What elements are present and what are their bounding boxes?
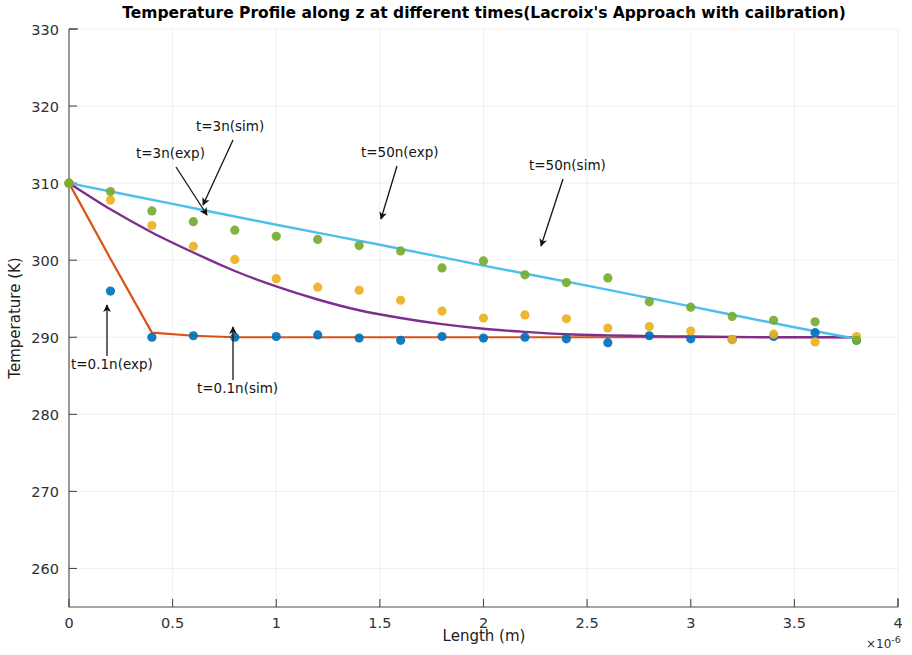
data-point	[520, 310, 529, 319]
data-point	[728, 335, 737, 344]
data-point	[272, 232, 281, 241]
data-point	[230, 226, 239, 235]
x-axis-multiplier-exponent: -6	[891, 634, 900, 645]
data-point	[562, 334, 571, 343]
data-point	[479, 333, 488, 342]
data-point	[230, 333, 239, 342]
data-point	[562, 278, 571, 287]
data-point	[769, 316, 778, 325]
data-point	[686, 327, 695, 336]
data-point	[189, 217, 198, 226]
data-point	[437, 332, 446, 341]
annotation-label: t=3n(exp)	[136, 145, 205, 161]
data-point	[437, 306, 446, 315]
data-point	[106, 187, 115, 196]
data-point	[230, 255, 239, 264]
data-point	[313, 283, 322, 292]
data-point	[769, 330, 778, 339]
data-point	[272, 332, 281, 341]
data-point	[811, 317, 820, 326]
data-point	[479, 313, 488, 322]
data-point	[355, 333, 364, 342]
annotation-label: t=50n(exp)	[361, 144, 439, 160]
annotation-label: t=0.1n(sim)	[197, 380, 278, 396]
y-tick-label: 290	[31, 330, 59, 346]
annotation-label: t=0.1n(exp)	[71, 356, 153, 372]
x-tick-label: 3.5	[783, 615, 806, 631]
data-point	[189, 242, 198, 251]
y-tick-label: 260	[31, 561, 59, 577]
data-point	[603, 338, 612, 347]
y-tick-label: 270	[31, 484, 59, 500]
data-point	[147, 221, 156, 230]
data-point	[645, 297, 654, 306]
x-tick-label: 2.5	[576, 615, 599, 631]
x-tick-label: 4	[893, 615, 902, 631]
x-tick-label: 0	[64, 615, 73, 631]
x-axis-multiplier-base: ×10	[866, 637, 891, 651]
data-point	[396, 336, 405, 345]
chart-title: Temperature Profile along z at different…	[122, 4, 846, 22]
chart-figure: 26027028029030031032033000.511.522.533.5…	[0, 0, 912, 655]
data-point	[189, 331, 198, 340]
data-point	[603, 273, 612, 282]
x-tick-label: 1.5	[368, 615, 391, 631]
data-point	[728, 312, 737, 321]
data-point	[603, 323, 612, 332]
data-point	[106, 195, 115, 204]
data-point	[562, 314, 571, 323]
data-point	[811, 337, 820, 346]
y-tick-label: 310	[31, 176, 59, 192]
data-point	[313, 330, 322, 339]
y-tick-label: 330	[31, 22, 59, 38]
x-axis-label: Length (m)	[443, 627, 526, 645]
data-point	[147, 206, 156, 215]
annotation-label: t=3n(sim)	[196, 118, 264, 134]
y-tick-label: 320	[31, 99, 59, 115]
data-point	[645, 322, 654, 331]
data-point	[313, 235, 322, 244]
data-point	[852, 336, 861, 345]
data-point	[811, 328, 820, 337]
data-point	[479, 256, 488, 265]
x-tick-label: 3	[686, 615, 695, 631]
data-point	[437, 263, 446, 272]
data-point	[520, 270, 529, 279]
x-tick-label: 0.5	[161, 615, 184, 631]
chart-background	[0, 0, 912, 655]
data-point	[686, 303, 695, 312]
data-point	[64, 179, 73, 188]
x-tick-label: 1	[272, 615, 281, 631]
data-point	[355, 241, 364, 250]
data-point	[520, 333, 529, 342]
data-point	[396, 246, 405, 255]
temperature-profile-chart: 26027028029030031032033000.511.522.533.5…	[0, 0, 912, 655]
y-tick-label: 300	[31, 253, 59, 269]
data-point	[272, 274, 281, 283]
y-tick-label: 280	[31, 407, 59, 423]
y-axis-label: Temperature (K)	[6, 257, 24, 379]
data-point	[396, 296, 405, 305]
annotation-label: t=50n(sim)	[529, 157, 606, 173]
data-point	[147, 333, 156, 342]
data-point	[355, 286, 364, 295]
data-point	[106, 286, 115, 295]
data-point	[645, 331, 654, 340]
